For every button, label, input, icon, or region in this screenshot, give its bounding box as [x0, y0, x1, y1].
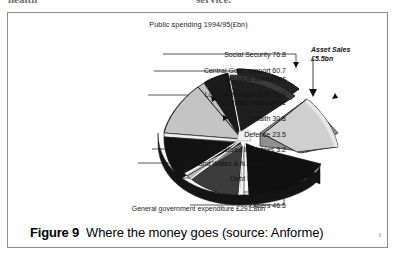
callout-scotland-wales-ni: Scotland Wales & N. Ireland 18.9 [134, 160, 286, 168]
callout-central-govt: Central Govt. support 60.7 to local auth… [150, 67, 286, 84]
callout-nationalised-industries: Nationalised Industries 3.2 [148, 146, 286, 154]
figure-caption: Figure 9 Where the money goes (source: A… [30, 225, 324, 240]
callout-reserve: Reserve 3.2 [186, 189, 286, 197]
figure-number: Figure 9 [30, 225, 79, 240]
page-running-text: health service. [0, 0, 396, 8]
callout-debt-interest: Debt Interest 22.5 [170, 175, 286, 183]
callout-social-security: Social Security 76.8 [160, 51, 286, 59]
pie-chart: Social Security 76.8 Central Govt. suppo… [8, 13, 389, 249]
figure-caption-text: Where the money goes (source: Anforme) [86, 225, 324, 240]
asset-sales-arrowhead [309, 89, 317, 97]
scan-artifact [379, 233, 381, 237]
callout-la-self-financed: Local authorities self- 11.0 financed ex… [144, 91, 286, 108]
callout-asset-sales: Asset Sales £5.5bn [311, 46, 350, 63]
figure-frame: Public spending 1994/95(£bn) [7, 12, 388, 248]
callout-defence: Defence 23.5 [186, 131, 286, 139]
running-text-fragment-right: service. [196, 0, 231, 5]
chart-footnote: General government expenditure £291.8bn [8, 205, 389, 212]
running-text-fragment-left: health [8, 0, 37, 5]
callout-health: Health 30.8 [186, 115, 286, 123]
